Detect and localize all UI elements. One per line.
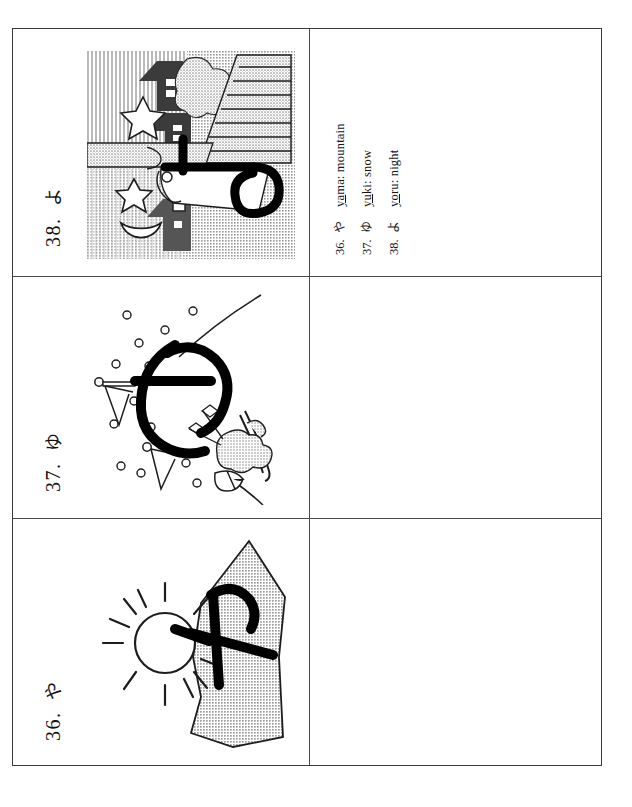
answer-romaji-underlined-37: yu [360, 194, 374, 207]
answer-separator-37: : [360, 177, 374, 184]
answer-number-37: 37. [360, 233, 375, 255]
worksheet-sheet: 38.よ [12, 28, 602, 766]
answer-romaji-underlined-36: ya [333, 195, 347, 207]
card-label-37: 37.ゆ [39, 431, 65, 492]
blank-cell-bottom-right [310, 519, 602, 767]
card-number-36: 36. [42, 712, 64, 742]
answer-number-38: 38. [387, 233, 402, 255]
card-cell-38[interactable]: 38.よ [13, 29, 309, 276]
answer-romaji-rest-38: ru [387, 183, 401, 194]
illustration-night-scene [87, 51, 295, 259]
answer-separator-36: : [333, 172, 347, 179]
card-number-37: 37. [42, 463, 64, 493]
card-kana-37: ゆ [43, 431, 64, 451]
illustration-mountain-scene [83, 537, 301, 752]
answer-key-cell: 36. や yama: mountain 37. ゆ yuki: snow 38… [310, 29, 602, 276]
card-cell-36[interactable]: 36.や [13, 519, 309, 767]
answer-key-row-38: 38. よ yoru: night [384, 123, 402, 255]
answer-key-row-37: 37. ゆ yuki: snow [357, 123, 375, 255]
answer-romaji-underlined-38: yo [387, 194, 401, 207]
answer-text-38: yoru: night [387, 150, 402, 207]
card-cell-37[interactable]: 37.ゆ [13, 277, 309, 518]
card-kana-36: や [43, 680, 64, 700]
answer-number-36: 36. [333, 233, 348, 255]
card-label-36: 36.や [39, 680, 65, 741]
answer-separator-38: : [387, 176, 401, 183]
answer-meaning-38: night [387, 150, 401, 177]
answer-text-36: yama: mountain [333, 123, 348, 207]
card-kana-38: よ [43, 186, 64, 206]
answer-meaning-37: snow [360, 150, 374, 177]
answer-key: 36. や yama: mountain 37. ゆ yuki: snow 38… [330, 123, 411, 255]
answer-text-37: yuki: snow [360, 150, 375, 207]
answer-kana-36: や [330, 207, 347, 233]
card-number-38: 38. [42, 218, 64, 248]
blank-cell-middle-right [310, 277, 602, 518]
answer-romaji-rest-36: ma [333, 179, 347, 195]
answer-key-row-36: 36. や yama: mountain [330, 123, 348, 255]
answer-romaji-rest-37: ki [360, 184, 374, 194]
answer-kana-37: ゆ [357, 207, 374, 233]
answer-meaning-36: mountain [333, 123, 347, 172]
card-label-38: 38.よ [39, 186, 65, 247]
answer-kana-38: よ [384, 207, 401, 233]
illustration-snow-scene [83, 293, 298, 505]
